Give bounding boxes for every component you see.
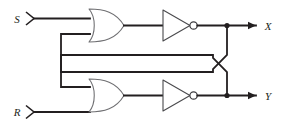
input-terminal-r[interactable] [26, 106, 34, 119]
wire-feedback-x-to-or-top [61, 26, 227, 73]
or-gate-top[interactable] [89, 9, 124, 42]
input-label-r: R [13, 106, 21, 118]
circuit-schematic: X Y S R [0, 0, 286, 132]
wire-feedback-y-to-or-bottom [61, 55, 227, 96]
inverter-bottom[interactable] [163, 80, 197, 111]
output-arrowhead-y [248, 92, 256, 99]
output-label-x: X [264, 20, 273, 32]
input-terminal-s[interactable] [26, 12, 34, 25]
inverter-bottom-bubble [190, 92, 197, 99]
inverter-top[interactable] [163, 10, 197, 41]
logic-diagram-canvas: X Y S R [0, 0, 286, 132]
or-gate-bottom[interactable] [89, 79, 124, 112]
inverter-top-bubble [190, 22, 197, 29]
output-label-y: Y [265, 90, 273, 102]
output-arrowhead-x [248, 22, 256, 29]
input-label-s: S [14, 13, 20, 25]
